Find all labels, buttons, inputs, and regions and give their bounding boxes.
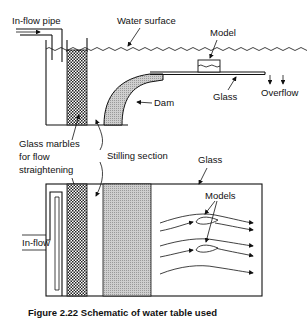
model-airfoil-2 [196, 245, 218, 252]
label-inflow-pipe: In-flow pipe [12, 15, 61, 26]
label-glass-top: Glass [213, 91, 238, 102]
side-view: In-flow pipe Water surface Model Glass O… [12, 15, 307, 125]
model-airfoil-1 [196, 217, 218, 224]
marbles-top-view [67, 184, 87, 296]
label-glass-bottom: Glass [198, 154, 223, 165]
inflow-pipe [16, 29, 62, 62]
label-stilling-section: Stilling section [107, 150, 168, 161]
water-table-diagram: In-flow pipe Water surface Model Glass O… [0, 0, 307, 318]
label-glass-marbles-3: straightening [19, 164, 73, 175]
dam-top-view [103, 184, 151, 296]
label-glass-marbles-1: Glass marbles [19, 138, 80, 149]
top-view: In-flow Models [22, 184, 262, 296]
label-model: Model [210, 27, 236, 38]
label-dam: Dam [154, 97, 174, 108]
label-glass-marbles-2: for flow [19, 151, 50, 162]
glass-marbles-column [67, 50, 87, 125]
label-water-surface: Water surface [117, 15, 176, 26]
label-overflow: Overflow [261, 87, 299, 98]
label-models: Models [205, 190, 236, 201]
figure-caption: Figure 2.22 Schematic of water table use… [28, 307, 217, 318]
label-inflow: In-flow [22, 237, 50, 248]
